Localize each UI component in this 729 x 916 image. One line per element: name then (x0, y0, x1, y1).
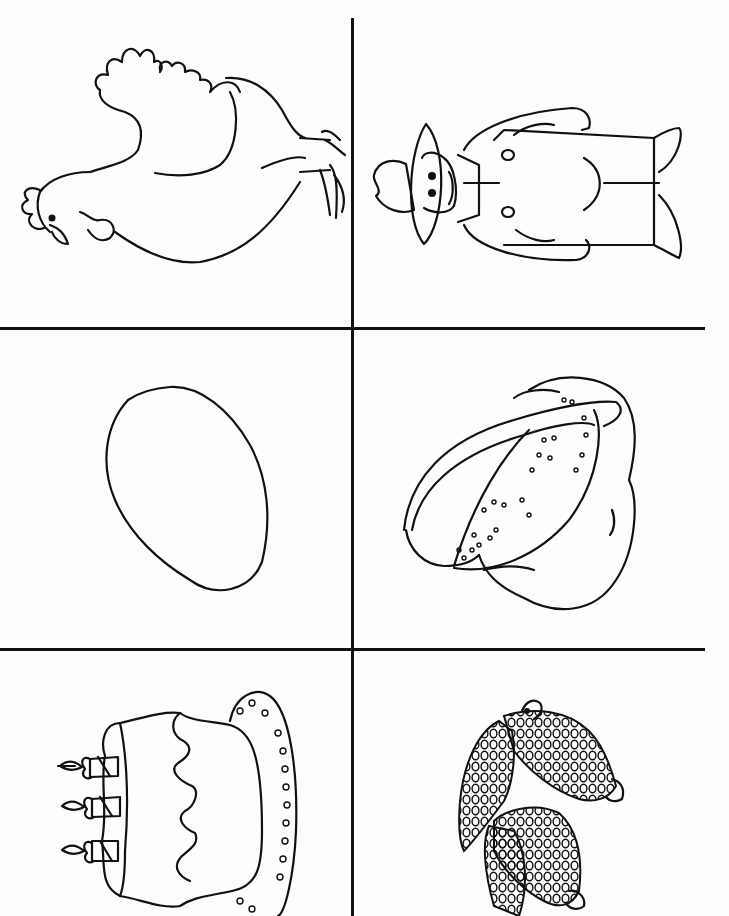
cell-hen (0, 0, 351, 327)
egg-icon (0, 330, 351, 648)
coloring-worksheet (0, 0, 729, 916)
cell-farmer (354, 0, 729, 327)
cell-corn (354, 651, 729, 916)
hen-icon (0, 0, 351, 327)
cell-egg (0, 330, 351, 648)
cell-birthday-cake (0, 651, 351, 916)
birthday-cake-icon (0, 651, 351, 916)
corn-icon (354, 651, 729, 916)
cell-bread (354, 330, 729, 648)
bread-icon (354, 330, 729, 648)
farmer-icon (354, 0, 729, 327)
